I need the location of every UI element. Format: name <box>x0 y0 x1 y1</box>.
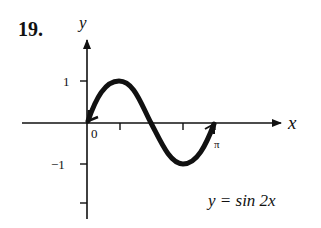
x-tick-label-pi: π <box>214 138 220 150</box>
x-axis-label: x <box>287 112 297 133</box>
function-annotation: y = sin 2x <box>206 191 276 210</box>
chart: y x 1 −1 0 π y = sin 2x <box>0 0 321 228</box>
y-tick-label-1: 1 <box>63 74 70 89</box>
y-axis-label: y <box>77 13 87 32</box>
x-tick-label-0: 0 <box>91 126 98 141</box>
y-tick-label-neg1: −1 <box>51 157 65 172</box>
